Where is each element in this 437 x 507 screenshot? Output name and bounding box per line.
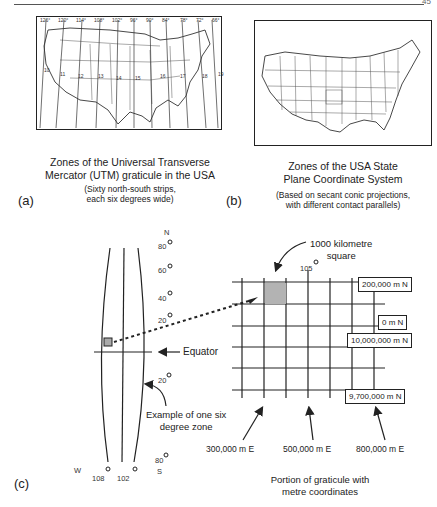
west-label: W <box>74 466 81 475</box>
central-meridian-label: 105 <box>300 264 313 273</box>
easting-label-500000: 500,000 m E <box>283 444 331 454</box>
lat-label-80n: 80 <box>158 242 166 251</box>
lat-label-60n: 60 <box>158 266 166 275</box>
lat-label-20n: 20 <box>158 316 166 325</box>
northing-box-10000000: 10,000,000 m N <box>347 333 412 348</box>
northing-box-200000: 200,000 m N <box>358 277 412 292</box>
caption-line: Portion of graticule with <box>260 474 380 486</box>
lat-label-20s: 20 <box>158 376 166 385</box>
south-label: S <box>157 467 162 476</box>
lat-label-80s: 80 <box>155 456 163 465</box>
panel-c-label: (c) <box>14 476 29 491</box>
label-line: 1000 kilometre <box>310 238 372 250</box>
north-label: N <box>164 228 169 237</box>
northing-box-9700000: 9,700,000 m N <box>345 389 405 404</box>
zone-example-label: Example of one six degree zone <box>146 409 226 433</box>
lat-label-40n: 40 <box>158 294 166 303</box>
label-line: square <box>310 250 372 262</box>
easting-label-300000: 300,000 m E <box>206 444 254 454</box>
caption-line: metre coordinates <box>260 486 380 498</box>
northing-box-0: 0 m N <box>378 315 407 330</box>
lon-label-108: 108 <box>92 474 105 483</box>
label-line: degree zone <box>146 421 226 433</box>
km-square-label: 1000 kilometre square <box>310 238 372 262</box>
lon-label-102: 102 <box>117 474 130 483</box>
easting-label-800000: 800,000 m E <box>356 444 404 454</box>
equator-label: Equator <box>183 346 218 357</box>
label-line: Example of one six <box>146 409 226 421</box>
panel-c-caption: Portion of graticule with metre coordina… <box>260 474 380 498</box>
